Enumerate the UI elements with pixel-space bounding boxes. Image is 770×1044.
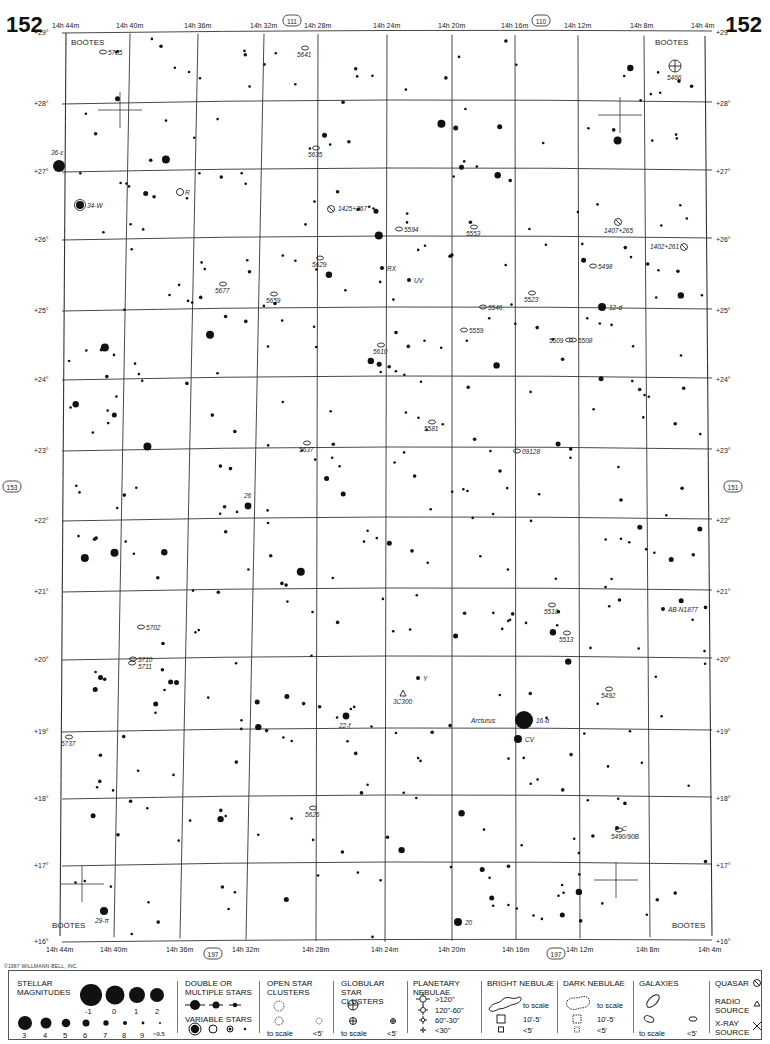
named-star[interactable] (515, 711, 533, 729)
named-star[interactable] (407, 278, 411, 282)
galaxy[interactable] (590, 264, 597, 268)
svg-text:5635: 5635 (308, 151, 323, 158)
galaxy[interactable] (310, 806, 317, 810)
adjacent-chart-153[interactable]: 153 (3, 481, 21, 492)
ra-label-top: 14h 8m (630, 22, 654, 29)
dec-label-left: +21° (34, 588, 49, 595)
dec-label-right: +24° (716, 376, 731, 383)
quasar[interactable] (615, 219, 622, 226)
svg-text:1407+265: 1407+265 (604, 227, 633, 234)
adjacent-chart-151[interactable]: 151 (724, 481, 742, 492)
deep-sky-objects (66, 46, 688, 832)
svg-text:5710: 5710 (138, 656, 153, 663)
svg-text:R: R (185, 189, 190, 196)
ra-label-bottom: 14h 40m (100, 946, 127, 953)
divider (333, 981, 334, 1033)
galaxy[interactable] (606, 687, 613, 691)
svg-text:34-W: 34-W (87, 202, 103, 209)
dec-label-left: +24° (34, 376, 49, 383)
ra-label-top: 14h 24m (373, 22, 400, 29)
ra-label-top: 14h 16m (501, 22, 528, 29)
adjacent-chart-111[interactable]: 111 (283, 15, 301, 26)
named-star[interactable] (661, 607, 665, 611)
svg-text:20: 20 (464, 919, 473, 926)
adjacent-chart-197-right[interactable]: 197 (547, 948, 565, 959)
star-chart[interactable]: 14h 44m14h 40m14h 36m14h 32m14h 28m14h 2… (0, 0, 770, 960)
named-star[interactable] (380, 266, 384, 270)
constellation-label: BOÖTES (52, 921, 85, 930)
svg-text:197: 197 (551, 951, 562, 958)
galaxy[interactable] (566, 338, 573, 342)
galaxy[interactable] (100, 50, 107, 54)
svg-text:29-π: 29-π (94, 917, 109, 924)
dec-label-right: +23° (716, 447, 731, 454)
galaxy[interactable] (302, 46, 309, 50)
divider (481, 981, 482, 1033)
svg-text:CV: CV (525, 736, 535, 743)
galaxy[interactable] (304, 441, 311, 445)
divider (633, 981, 634, 1033)
galaxy[interactable] (313, 146, 320, 150)
divider (557, 981, 558, 1033)
dec-label-left: +17° (34, 862, 49, 869)
dec-label-left: +23° (34, 447, 49, 454)
svg-text:5546: 5546 (488, 304, 503, 311)
dec-label-left: +22° (34, 517, 49, 524)
galaxy[interactable] (271, 292, 278, 296)
svg-text:5581: 5581 (424, 425, 439, 432)
named-star[interactable] (598, 303, 606, 311)
adjacent-chart-197-left[interactable]: 197 (204, 948, 222, 959)
svg-text:5629: 5629 (312, 261, 327, 268)
variable-star[interactable] (177, 189, 184, 196)
galaxy[interactable] (564, 631, 571, 635)
svg-text:153: 153 (7, 484, 18, 491)
galaxy[interactable] (138, 625, 145, 629)
svg-text:1402+261: 1402+261 (650, 243, 679, 250)
named-star[interactable] (53, 160, 65, 172)
galaxy[interactable] (514, 449, 521, 453)
svg-text:16-α: 16-α (536, 717, 549, 724)
galaxy[interactable] (220, 282, 227, 286)
ra-label-top: 14h 12m (564, 22, 591, 29)
dec-label-right: +28° (716, 100, 731, 107)
adjacent-chart-110[interactable]: 110 (532, 15, 550, 26)
dec-label-right: +26° (716, 236, 731, 243)
named-star[interactable] (454, 918, 462, 926)
galaxy[interactable] (549, 603, 556, 607)
galaxy[interactable] (378, 343, 385, 347)
galaxy[interactable] (429, 420, 436, 424)
dec-label-left: +18° (34, 795, 49, 802)
legend-galaxies: GALAXIES to scale <5' (635, 971, 707, 1039)
named-star[interactable] (514, 735, 522, 743)
svg-text:5641: 5641 (297, 51, 312, 58)
quasar[interactable] (328, 206, 335, 213)
galaxy[interactable] (396, 227, 403, 231)
svg-text:5702: 5702 (146, 624, 161, 631)
galaxy[interactable] (129, 661, 136, 665)
svg-text:5553: 5553 (466, 230, 481, 237)
galaxy[interactable] (570, 338, 577, 342)
named-star[interactable] (343, 713, 350, 720)
named-star[interactable] (245, 503, 252, 510)
svg-text:111: 111 (287, 18, 297, 25)
globular-cluster-5466[interactable] (669, 60, 681, 72)
dec-label-left: +26° (34, 236, 49, 243)
dec-label-right: +25° (716, 307, 731, 314)
galaxy[interactable] (66, 735, 73, 739)
named-star[interactable] (76, 201, 84, 209)
svg-text:22-f: 22-f (338, 722, 351, 729)
object-labels: 36-ε34-WR12-d2622-fArcturus16-αCV29-π20Y… (51, 49, 698, 926)
galaxy[interactable] (461, 328, 468, 332)
divider (177, 981, 178, 1033)
radio-source[interactable] (400, 690, 406, 696)
named-star[interactable] (100, 907, 108, 915)
galaxy[interactable] (529, 291, 536, 295)
ra-label-bottom: 14h 20m (438, 946, 465, 953)
quasar[interactable] (681, 244, 688, 251)
svg-text:197: 197 (208, 951, 219, 958)
named-star[interactable] (416, 676, 420, 680)
coordinate-grid (60, 30, 712, 942)
ra-label-top: 14h 44m (52, 22, 79, 29)
galaxy[interactable] (471, 225, 478, 229)
ra-label-bottom: 14h 32m (232, 946, 259, 953)
